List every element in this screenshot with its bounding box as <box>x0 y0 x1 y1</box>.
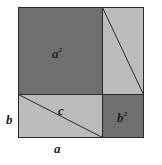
pythagorean-diagram: a2 b2 c b a <box>0 0 162 165</box>
hypotenuse-label: c <box>58 103 64 118</box>
side-a-label: a <box>54 141 61 156</box>
side-b-label: b <box>6 112 13 127</box>
